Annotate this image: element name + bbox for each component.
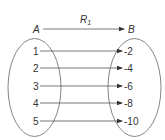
- relation-label: R1: [80, 14, 91, 26]
- domain-element: 3: [33, 81, 39, 92]
- domain-element: 4: [33, 98, 39, 109]
- codomain-element: -4: [124, 63, 133, 74]
- domain-element: 5: [33, 116, 39, 127]
- codomain-element: -2: [124, 46, 133, 57]
- domain-element: 1: [33, 46, 39, 57]
- domain-element: 2: [33, 63, 39, 74]
- codomain-element: -8: [124, 98, 133, 109]
- set-b-label: B: [128, 24, 135, 35]
- codomain-element: -6: [124, 81, 133, 92]
- relation-diagram: A B R1 1 2 3 4 5 -2 -4 -6 -8 -10: [0, 0, 165, 140]
- codomain-element: -10: [124, 116, 139, 127]
- set-a-label: A: [32, 24, 40, 35]
